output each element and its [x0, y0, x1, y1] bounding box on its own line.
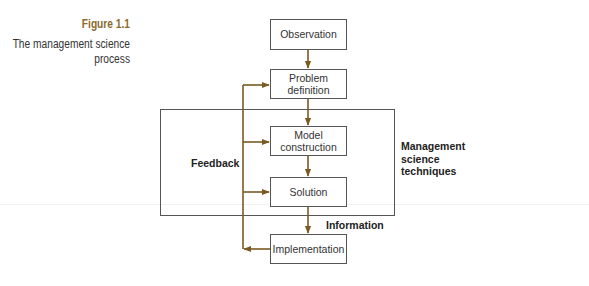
implementation-box: Implementation: [270, 234, 347, 264]
information-label: Information: [326, 219, 384, 232]
feedback-label: Feedback: [191, 157, 239, 170]
techniques-label: Management science techniques: [401, 140, 465, 178]
solution-box: Solution: [270, 177, 347, 207]
observation-box: Observation: [270, 19, 347, 50]
model-construction-box: Model construction: [270, 126, 347, 156]
problem-definition-box: Problem definition: [270, 69, 347, 99]
